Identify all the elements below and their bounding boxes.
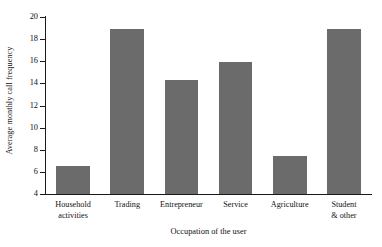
y-axis-tick-label: 8 [18, 146, 38, 154]
y-axis-tick-label: 16 [18, 57, 38, 65]
y-axis-tick [40, 17, 45, 18]
y-axis-tick [40, 150, 45, 151]
x-axis-category-label: Householdactivities [46, 200, 100, 221]
y-axis-tick-label: 12 [18, 101, 38, 109]
bar [219, 62, 253, 194]
category-label-line1: Service [223, 200, 248, 209]
bar [327, 29, 361, 194]
y-axis-tick-label: 18 [18, 35, 38, 43]
y-axis-tick-label: 10 [18, 123, 38, 131]
x-axis-category-label: Service [209, 200, 263, 211]
x-axis-category-label: Entrepreneur [154, 200, 208, 211]
plot-area [46, 17, 371, 194]
bar [165, 80, 199, 194]
y-axis-tick [40, 39, 45, 40]
y-axis-tick-label: 14 [18, 79, 38, 87]
bar [56, 166, 90, 194]
category-label-line1: Entrepreneur [160, 200, 203, 209]
x-axis-line [45, 194, 372, 195]
y-axis-tick-label: 6 [18, 168, 38, 176]
x-axis-category-label: Agriculture [263, 200, 317, 211]
category-label-line2: activities [46, 211, 100, 222]
category-label-line2: & other [317, 211, 371, 222]
y-axis-tick [40, 83, 45, 84]
y-axis-tick-label: 20 [18, 13, 38, 21]
x-axis-title: Occupation of the user [46, 227, 371, 236]
y-axis-tick [40, 61, 45, 62]
y-axis-tick [40, 106, 45, 107]
y-axis-tick [40, 172, 45, 173]
bar [110, 29, 144, 194]
x-axis-category-label: Trading [100, 200, 154, 211]
category-label-line1: Student [331, 200, 356, 209]
category-label-line1: Trading [114, 200, 140, 209]
category-label-line1: Household [55, 200, 90, 209]
y-axis-title-text: Average monthly call frequency [5, 46, 14, 154]
y-axis-tick [40, 128, 45, 129]
y-axis-tick-label: 4 [18, 190, 38, 198]
category-label-line1: Agriculture [271, 200, 309, 209]
x-axis-category-label: Student& other [317, 200, 371, 221]
bar-chart-figure: Average monthly call frequency 468101214… [0, 0, 382, 247]
y-axis-tick [40, 194, 45, 195]
y-axis-tick-labels: 468101214161820 [15, 0, 38, 247]
bar [273, 156, 307, 194]
